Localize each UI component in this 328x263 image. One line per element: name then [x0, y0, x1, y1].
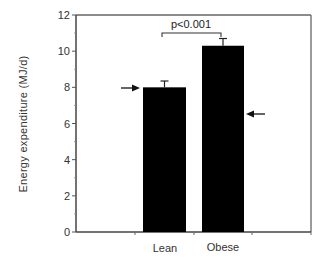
category-label-obese: Obese [207, 241, 239, 253]
y-ticks: 024681012 [58, 9, 76, 238]
significance-bracket: p<0.001 [162, 18, 221, 37]
y-axis-label: Energy expenditure (MJ/d) [17, 55, 29, 192]
arrow-left-icon [246, 111, 265, 118]
y-tick-label: 4 [64, 154, 70, 166]
plot-frame [76, 15, 311, 232]
bars [143, 39, 244, 232]
significance-label: p<0.001 [171, 18, 211, 30]
bar-obese [202, 46, 244, 232]
y-tick-label: 6 [64, 118, 70, 130]
y-tick-label: 0 [64, 226, 70, 238]
bar-chart: 024681012 p<0.001 Lean Obese Energy expe… [0, 0, 328, 263]
bar-lean [143, 87, 186, 232]
y-tick-label: 12 [58, 9, 70, 21]
y-tick-label: 2 [64, 190, 70, 202]
y-tick-label: 8 [64, 81, 70, 93]
category-label-lean: Lean [153, 242, 177, 254]
y-tick-label: 10 [58, 45, 70, 57]
arrow-right-icon [121, 85, 140, 92]
